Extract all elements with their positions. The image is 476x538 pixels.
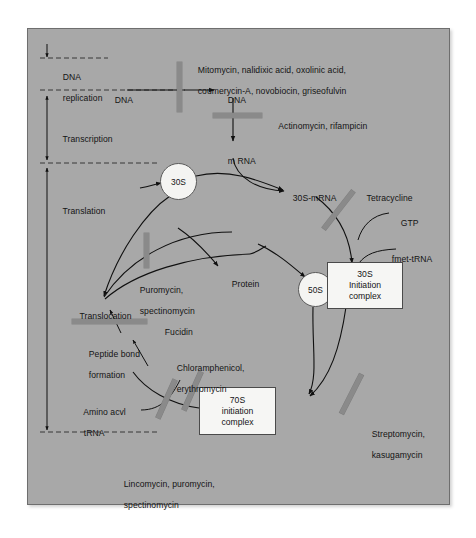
dna-inhibitors-line1: Mitomycin, nalidixic acid, oxolinic acid… — [198, 65, 346, 75]
protein-release-arrow — [178, 228, 218, 266]
lincomycin-line1: Lincomycin, puromycin, — [124, 479, 215, 489]
s50-to-init70-flow — [309, 307, 314, 394]
label-translocation: Translocation — [70, 300, 132, 332]
init30-to-70-curve — [310, 307, 346, 396]
node-30s-label: 30S — [171, 177, 186, 187]
dna-inhibitors-line2: coumerycin-A, novobiocin, griseofulvin — [198, 86, 347, 96]
label-amino-acyl-trna: Amino acvl tRNA — [74, 396, 126, 449]
label-chloramphenicol-erythromycin: Chloramphenicol, erythromycin — [167, 352, 244, 405]
stage-label-dna-replication: DNA replication — [53, 61, 103, 114]
lincomycin-line2: spectinomycin — [124, 500, 179, 510]
inhibitor-bar-dna-replication — [177, 62, 182, 112]
label-dna-left: DNA — [105, 84, 133, 116]
label-transcription-inhibitors: Actinomycin, rifampicin — [269, 110, 367, 142]
tetracycline-line1: Tetracycline — [367, 193, 413, 203]
node-30s-init-line2: Initiation — [349, 280, 381, 291]
gtp-curve — [358, 213, 389, 240]
inhibitor-bar-puromycin-spectinomycin — [144, 233, 149, 268]
chloramphenicol-line2: erythromycin — [177, 384, 227, 394]
label-mrna: m RNA — [218, 145, 256, 177]
fucidin-line1: Fucidin — [165, 327, 193, 337]
label-30s-mrna: 30S-mRNA — [283, 182, 337, 214]
fmet-trna-text: fmet-tRNA — [392, 254, 433, 264]
cycle-to-s50-flow — [258, 244, 305, 277]
streptomycin-line1: Streptomycin, — [372, 429, 425, 439]
s50-to-70-curve — [309, 307, 314, 394]
node-30s-init-line3: complex — [349, 291, 381, 302]
label-peptide-bond-formation: Peptide bond formation — [79, 338, 140, 391]
elongation-arc — [250, 246, 266, 254]
translocation-text: Translocation — [80, 311, 132, 321]
node-30s[interactable]: 30S — [160, 163, 197, 200]
mrna-text: m RNA — [228, 156, 256, 166]
dna-left-text: DNA — [115, 95, 133, 105]
label-dna-replication-inhibitors: Mitomycin, nalidixic acid, oxolinic acid… — [188, 54, 346, 107]
node-70s-init-line2: initiation — [222, 406, 254, 417]
gtp-feed — [358, 213, 389, 240]
node-70s-init-line3: complex — [222, 417, 254, 428]
cycle-to-50s — [258, 244, 305, 277]
chloramphenicol-line1: Chloramphenicol, — [177, 363, 245, 373]
label-streptomycin-kasugamycin: Streptomycin, kasugamycin — [362, 418, 425, 471]
s30-mrna-text: 30S-mRNA — [293, 193, 337, 203]
transcription-inhibitors-line1: Actinomycin, rifampicin — [278, 121, 367, 131]
stage-transcription-label: Transcription — [63, 134, 113, 144]
label-tetracycline: Tetracycline — [357, 182, 413, 214]
label-fucidin: Fucidin — [155, 316, 193, 348]
stage-label-translation: Translation — [53, 195, 105, 227]
stage-label-transcription: Transcription — [53, 123, 113, 155]
node-30s-init-line1: 30S — [357, 269, 372, 280]
label-protein: Protein — [222, 268, 259, 300]
peptide-bond-line2: formation — [89, 370, 125, 380]
stage-dna-replication-line2: replication — [63, 93, 103, 103]
stage-dna-replication-line1: DNA — [63, 72, 81, 82]
amino-acyl-line2: tRNA — [84, 428, 105, 438]
kasugamycin-line2: kasugamycin — [372, 450, 423, 460]
amino-acyl-line1: Amino acvl — [83, 407, 126, 417]
gtp-text: GTP — [401, 218, 419, 228]
node-50s-label: 50S — [308, 285, 323, 295]
protein-text: Protein — [232, 279, 260, 289]
puromycin-line2: spectinomycin — [140, 306, 195, 316]
into-30s-arrow — [140, 183, 161, 188]
label-lincomycin-puromycin-spectinomycin: Lincomycin, puromycin, spectinomycin — [114, 468, 215, 521]
stage-translation-label: Translation — [63, 206, 106, 216]
puromycin-line1: Puromycin, — [140, 285, 183, 295]
peptide-bond-line1: Peptide bond — [89, 349, 140, 359]
init30-to-init70-flow — [310, 307, 346, 396]
figure-root: 30S 50S 30S Initiation complex 70S initi… — [0, 0, 476, 538]
label-fmet-trna: fmet-tRNA — [382, 243, 432, 275]
